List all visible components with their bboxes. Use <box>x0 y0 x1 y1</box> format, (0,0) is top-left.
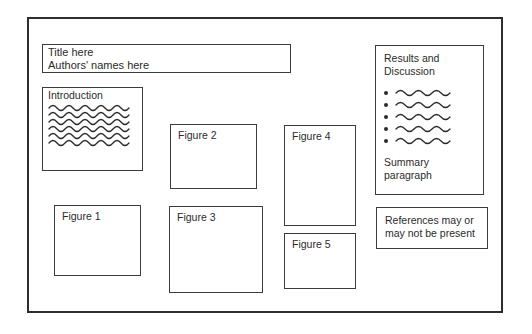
squiggle-line-icon <box>395 101 458 109</box>
summary-line-1: Summary <box>384 156 483 169</box>
bullet-list-item <box>384 123 483 135</box>
introduction-box: Introduction <box>42 87 143 171</box>
figure-3-box: Figure 3 <box>169 206 263 293</box>
placeholder-text-line <box>48 104 142 111</box>
placeholder-text-line <box>48 118 142 125</box>
figure-2-label: Figure 2 <box>178 129 217 141</box>
bullet-icon <box>384 103 388 107</box>
results-bullet-list <box>384 87 483 147</box>
squiggle-line-icon <box>395 113 458 121</box>
bullet-list-item <box>384 111 483 123</box>
placeholder-text-line <box>48 132 142 139</box>
squiggle-line-icon <box>395 89 458 97</box>
bullet-icon <box>384 115 388 119</box>
squiggle-line-icon <box>395 125 458 133</box>
figure-4-label: Figure 4 <box>292 130 331 142</box>
figure-1-label: Figure 1 <box>62 210 101 222</box>
title-box: Title here Authors' names here <box>42 44 291 73</box>
figure-3-label: Figure 3 <box>177 211 216 223</box>
figure-5-box: Figure 5 <box>284 233 356 289</box>
references-box: References may or may not be present <box>376 207 488 249</box>
squiggle-line-icon <box>48 139 136 147</box>
figure-4-box: Figure 4 <box>284 125 356 226</box>
bullet-icon <box>384 139 388 143</box>
results-heading-line-1: Results and <box>384 52 483 65</box>
introduction-squiggles <box>48 104 142 146</box>
authors-text: Authors' names here <box>48 59 290 72</box>
references-line-2: may not be present <box>385 227 487 240</box>
bullet-icon <box>384 91 388 95</box>
figure-1-box: Figure 1 <box>54 205 141 276</box>
bullet-list-item <box>384 87 483 99</box>
poster-outline: Title here Authors' names here Introduct… <box>27 17 503 313</box>
results-heading-line-2: Discussion <box>384 65 483 78</box>
references-line-1: References may or <box>385 214 487 227</box>
placeholder-text-line <box>48 125 142 132</box>
bullet-list-item <box>384 99 483 111</box>
figure-5-label: Figure 5 <box>292 238 331 250</box>
title-text: Title here <box>48 46 290 59</box>
results-box: Results and Discussion Summary paragraph <box>375 45 484 195</box>
summary-line-2: paragraph <box>384 169 483 182</box>
placeholder-text-line <box>48 139 142 146</box>
placeholder-text-line <box>48 111 142 118</box>
figure-2-box: Figure 2 <box>170 124 257 189</box>
bullet-list-item <box>384 135 483 147</box>
squiggle-line-icon <box>395 137 458 145</box>
bullet-icon <box>384 127 388 131</box>
introduction-heading: Introduction <box>48 89 142 102</box>
